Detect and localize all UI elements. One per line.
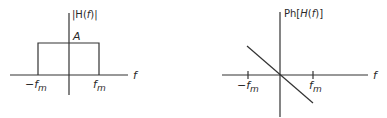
phase-plot: Ph[H(f)] f −fm fm xyxy=(222,8,379,117)
phase-ylabel: Ph[H(f)] xyxy=(284,8,323,19)
phase-pos-cutoff-label: fm xyxy=(309,79,322,94)
diagram-canvas: |H(f)| A f −fm fm Ph[H(f)] f −fm fm xyxy=(0,0,387,118)
pos-cutoff-label: fm xyxy=(93,78,106,93)
magnitude-ylabel: |H(f)| xyxy=(72,9,98,21)
magnitude-xlabel: f xyxy=(133,69,139,82)
amplitude-label: A xyxy=(72,30,81,43)
phase-neg-cutoff-label: −fm xyxy=(237,79,259,94)
magnitude-plot: |H(f)| A f −fm fm xyxy=(10,9,139,95)
phase-xlabel: f xyxy=(373,69,379,82)
neg-cutoff-label: −fm xyxy=(25,78,47,93)
